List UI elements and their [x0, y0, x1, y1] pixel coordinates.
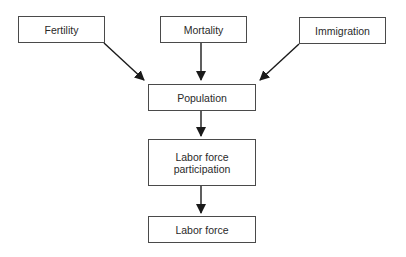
node-labor-force-participation: Labor force participation: [148, 139, 256, 186]
node-immigration: Immigration: [299, 17, 386, 44]
node-labor-force-participation-line2: participation: [174, 163, 231, 175]
node-labor-force-participation-line1: Labor force: [175, 151, 228, 163]
node-fertility-label: Fertility: [45, 24, 79, 36]
node-mortality: Mortality: [160, 16, 247, 43]
node-population: Population: [148, 84, 256, 111]
diagram-canvas: Fertility Mortality Immigration Populati…: [0, 0, 406, 257]
node-mortality-label: Mortality: [184, 24, 224, 36]
node-labor-force: Labor force: [148, 216, 256, 243]
node-fertility: Fertility: [18, 16, 105, 43]
node-immigration-label: Immigration: [315, 25, 370, 37]
node-population-label: Population: [177, 92, 227, 104]
arrow-immigration-to-population: [260, 44, 299, 80]
arrow-fertility-to-population: [104, 43, 144, 80]
node-labor-force-label: Labor force: [175, 224, 228, 236]
